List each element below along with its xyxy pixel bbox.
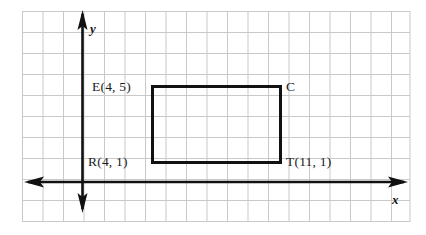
coordinate-plane-figure: E(4, 5) C R(4, 1) T(11, 1) y x xyxy=(0,0,426,235)
vertex-label-t: T(11, 1) xyxy=(286,155,331,169)
rectangle-shape xyxy=(153,87,281,163)
vertex-label-e: E(4, 5) xyxy=(92,80,131,94)
coordinate-plane-svg xyxy=(0,0,426,235)
x-axis-label: x xyxy=(392,193,399,206)
grid-horizontal-lines xyxy=(22,12,410,222)
vertex-label-c: C xyxy=(286,80,295,94)
vertex-label-r: R(4, 1) xyxy=(88,155,128,169)
y-axis-label: y xyxy=(90,22,96,35)
